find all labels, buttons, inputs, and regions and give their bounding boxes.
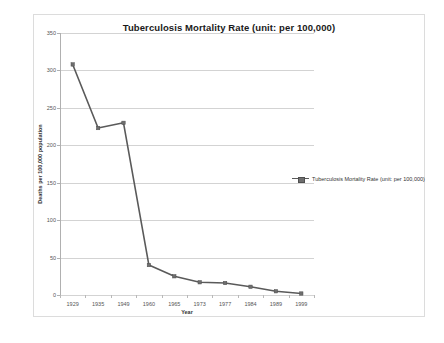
x-axis-tick-label: 1965 bbox=[168, 301, 180, 307]
y-axis-tick-label: 300 bbox=[47, 67, 56, 73]
x-axis-tick-mark bbox=[289, 295, 290, 298]
data-point-marker bbox=[96, 126, 99, 129]
x-axis-tick-mark bbox=[60, 295, 61, 298]
x-axis-tick-mark bbox=[162, 295, 163, 298]
y-axis-tick-label: 150 bbox=[47, 180, 56, 186]
data-series-line bbox=[60, 33, 314, 295]
chart-title: Tuberculosis Mortality Rate (unit: per 1… bbox=[34, 22, 424, 33]
series-line bbox=[73, 64, 302, 293]
x-axis-tick-label: 1960 bbox=[143, 301, 155, 307]
y-axis-tick-label: 50 bbox=[50, 255, 56, 261]
chart-legend: Tuberculosis Mortality Rate (unit: per 1… bbox=[292, 175, 425, 182]
data-point-marker bbox=[173, 275, 176, 278]
y-axis-tick-label: 0 bbox=[53, 292, 56, 298]
y-axis-tick-label: 100 bbox=[47, 217, 56, 223]
data-point-marker bbox=[147, 263, 150, 266]
y-axis-tick-label: 250 bbox=[47, 105, 56, 111]
x-axis-tick-label: 1973 bbox=[194, 301, 206, 307]
x-axis-tick-mark bbox=[314, 295, 315, 298]
chart-frame: Tuberculosis Mortality Rate (unit: per 1… bbox=[33, 14, 425, 317]
x-axis-tick-label: 1977 bbox=[219, 301, 231, 307]
x-axis-tick-mark bbox=[212, 295, 213, 298]
x-axis-tick-mark bbox=[85, 295, 86, 298]
x-axis-tick-label: 1984 bbox=[244, 301, 256, 307]
y-axis-title: Deaths per 100,000 population bbox=[37, 124, 43, 203]
x-axis-tick-mark bbox=[263, 295, 264, 298]
x-axis-tick-label: 1949 bbox=[117, 301, 129, 307]
legend-label: Tuberculosis Mortality Rate (unit: per 1… bbox=[312, 176, 425, 182]
plot-area: 050100150200250300350 192919351949196019… bbox=[60, 33, 314, 295]
x-axis-tick-mark bbox=[111, 295, 112, 298]
plot-inner: 050100150200250300350 192919351949196019… bbox=[60, 33, 314, 295]
y-axis-tick-label: 350 bbox=[47, 30, 56, 36]
x-axis-tick-mark bbox=[238, 295, 239, 298]
y-axis-tick-label: 200 bbox=[47, 142, 56, 148]
data-point-marker bbox=[223, 281, 226, 284]
data-point-marker bbox=[300, 292, 303, 295]
x-axis-tick-label: 1989 bbox=[270, 301, 282, 307]
data-point-marker bbox=[71, 63, 74, 66]
x-axis-title: Year bbox=[181, 309, 193, 315]
x-axis-tick-label: 1935 bbox=[92, 301, 104, 307]
x-axis-tick-label: 1999 bbox=[295, 301, 307, 307]
data-point-marker bbox=[249, 285, 252, 288]
data-point-marker bbox=[274, 290, 277, 293]
x-axis-tick-mark bbox=[136, 295, 137, 298]
x-axis-tick-mark bbox=[187, 295, 188, 298]
data-point-marker bbox=[198, 281, 201, 284]
x-axis-tick-label: 1929 bbox=[67, 301, 79, 307]
legend-swatch-icon bbox=[292, 175, 309, 182]
data-point-marker bbox=[122, 121, 125, 124]
